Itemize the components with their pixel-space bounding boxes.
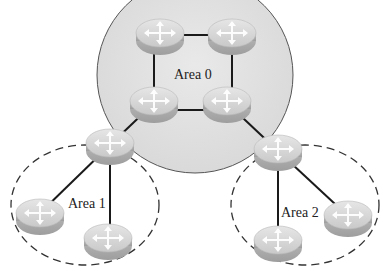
- router-icon: [86, 129, 134, 165]
- router-icon: [130, 87, 178, 123]
- router-icon: [254, 226, 302, 262]
- router-icon: [203, 87, 251, 123]
- area2-label: Area 2: [281, 205, 319, 221]
- ospf-topology-diagram: Area 0 Area 1 Area 2: [0, 0, 383, 271]
- router-icon: [254, 135, 302, 171]
- area1-label: Area 1: [68, 196, 106, 212]
- area0-label: Area 0: [174, 67, 212, 83]
- router-icon: [84, 224, 132, 260]
- router-icon: [16, 199, 64, 235]
- router-icon: [208, 19, 256, 55]
- router-icon: [324, 201, 372, 237]
- router-icon: [136, 19, 184, 55]
